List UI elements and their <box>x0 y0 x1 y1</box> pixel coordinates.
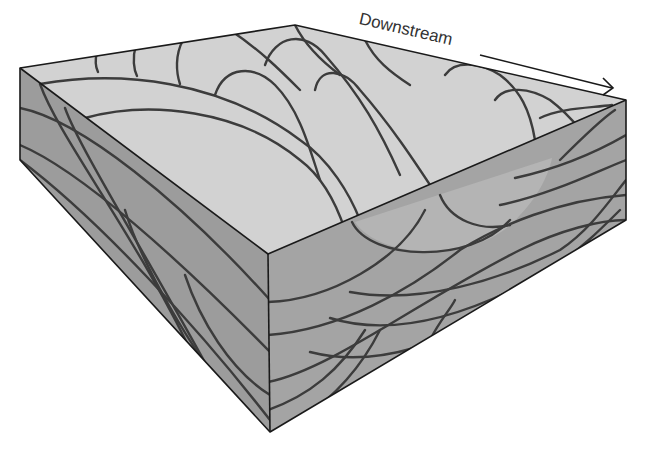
cross-bedding-diagram: Downstream <box>0 0 646 449</box>
